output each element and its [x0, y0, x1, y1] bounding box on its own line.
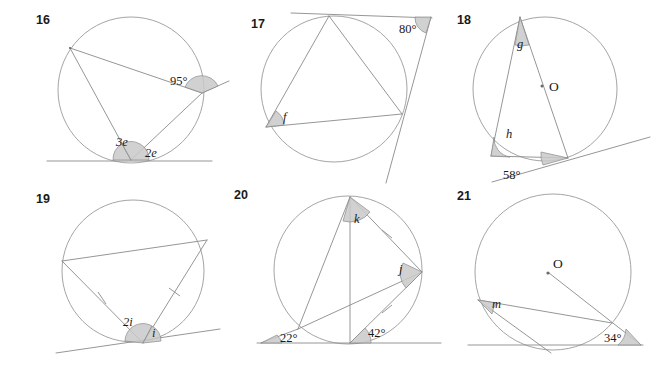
figure-21: 21 O m 34° — [0, 0, 671, 369]
figure-21-circle — [475, 194, 631, 350]
worksheet-sheet: 16 95° 3e 2e 17 80° f 18 — [0, 0, 671, 369]
figure-21-angle-m-label: m — [492, 297, 501, 311]
figure-21-angle-34-label: 34° — [604, 331, 622, 345]
figure-21-center-label: O — [553, 256, 563, 271]
figure-21-center-dot — [546, 271, 549, 274]
figure-21-number: 21 — [457, 189, 471, 203]
